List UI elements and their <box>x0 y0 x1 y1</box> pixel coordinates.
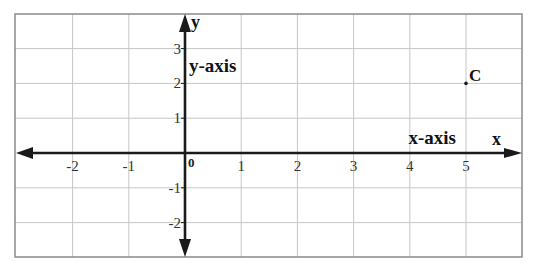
y-tick-label: -2 <box>169 215 182 231</box>
x-tick-label: -1 <box>123 158 136 174</box>
x-axis-right-arrow-icon <box>504 148 522 158</box>
x-tick-label: 1 <box>237 158 245 174</box>
x-tick-label: 5 <box>462 158 470 174</box>
point-dot <box>464 82 468 86</box>
y-axis-name: y-axis <box>189 55 237 76</box>
points: C <box>464 66 481 85</box>
x-axis-letter: x <box>492 129 501 149</box>
coordinate-plane: -2-112345321-1-2 0 y x y-axis x-axis C <box>0 0 539 276</box>
y-tick-label: -1 <box>169 180 182 196</box>
x-tick-label: 4 <box>406 158 414 174</box>
x-tick-label: 3 <box>350 158 358 174</box>
x-axis-left-arrow-icon <box>16 147 33 159</box>
x-tick-label: -2 <box>66 158 79 174</box>
y-axis-letter: y <box>191 12 200 32</box>
y-tick-label: 1 <box>174 110 182 126</box>
y-axis-down-arrow-icon <box>179 239 191 257</box>
x-axis-name: x-axis <box>409 127 457 148</box>
y-tick-label: 2 <box>174 75 182 91</box>
x-tick-label: 2 <box>294 158 302 174</box>
point-label: C <box>469 66 481 85</box>
origin-label: 0 <box>188 155 195 170</box>
y-tick-label: 3 <box>174 41 182 57</box>
point-c: C <box>464 66 481 85</box>
y-axis-up-arrow-icon <box>179 14 191 32</box>
